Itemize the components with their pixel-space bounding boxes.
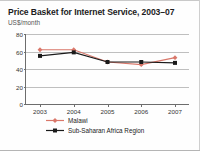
- data-point-marker: [38, 47, 43, 52]
- chart-title: Price Basket for Internet Service, 2003–…: [8, 7, 174, 17]
- y-tick-label: 0: [20, 101, 23, 108]
- diamond-marker-icon: [46, 117, 64, 124]
- x-tick-mark: [40, 104, 41, 107]
- data-point-marker: [173, 61, 177, 65]
- legend-item[interactable]: Malawi: [46, 117, 144, 124]
- data-point-marker: [173, 55, 178, 60]
- x-tick-label: 2004: [67, 108, 81, 115]
- legend-label: Malawi: [68, 117, 88, 124]
- legend-label: Sub-Saharan Africa Region: [68, 127, 144, 134]
- data-point-marker: [106, 60, 110, 64]
- x-tick-label: 2006: [134, 108, 148, 115]
- y-tick-mark: [24, 104, 26, 105]
- chart-figure: Price Basket for Internet Service, 2003–…: [0, 0, 200, 151]
- x-tick-label: 2003: [33, 108, 47, 115]
- x-tick-mark: [108, 104, 109, 107]
- x-tick-label: 2007: [168, 108, 182, 115]
- x-tick-mark: [141, 104, 142, 107]
- data-point-marker: [38, 54, 42, 58]
- series-layer: [26, 34, 189, 104]
- figure-bottom-rule: [0, 150, 200, 151]
- y-tick-label: 40: [16, 66, 23, 73]
- chart-subtitle: US$/month: [8, 19, 40, 26]
- legend-item[interactable]: Sub-Saharan Africa Region: [46, 127, 144, 134]
- x-tick-mark: [74, 104, 75, 107]
- data-point-marker: [72, 50, 76, 54]
- y-tick-label: 20: [16, 83, 23, 90]
- figure-right-rule: [199, 0, 200, 151]
- y-tick-label: 60: [16, 48, 23, 55]
- chart-legend: MalawiSub-Saharan Africa Region: [46, 117, 144, 134]
- figure-top-rule: [0, 0, 200, 1]
- data-point-marker: [139, 60, 143, 64]
- x-tick-label: 2005: [101, 108, 115, 115]
- y-tick-label: 80: [16, 31, 23, 38]
- x-tick-mark: [175, 104, 176, 107]
- square-marker-icon: [46, 127, 64, 134]
- plot-area: 806040200 20032004200520062007: [25, 34, 189, 105]
